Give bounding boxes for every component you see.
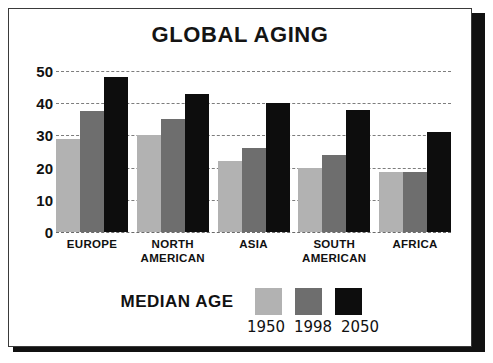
bar-group bbox=[298, 71, 370, 232]
legend-title: MEDIAN AGE bbox=[121, 292, 234, 312]
category-label: NORTHAMERICAN bbox=[137, 237, 209, 265]
y-tick-40: 40 bbox=[17, 95, 53, 112]
x-axis-baseline bbox=[56, 232, 451, 233]
y-tick-0: 0 bbox=[17, 224, 53, 241]
page-shadow-right bbox=[471, 13, 485, 351]
bar-1950 bbox=[56, 139, 80, 232]
legend-year-row: 1950 1998 2050 bbox=[9, 318, 473, 336]
x-axis-category-labels: EUROPENORTHAMERICANASIASOUTHAMERICANAFRI… bbox=[56, 237, 451, 265]
y-tick-50: 50 bbox=[17, 63, 53, 80]
bar-group bbox=[379, 71, 451, 232]
bar-1950 bbox=[379, 172, 403, 232]
bar-1950 bbox=[218, 161, 242, 232]
chart-card: GLOBAL AGING 50 40 30 20 10 0 EUROPENORT… bbox=[8, 8, 472, 347]
bar-1998 bbox=[80, 111, 104, 232]
y-tick-30: 30 bbox=[17, 127, 53, 144]
legend-swatch-2050 bbox=[335, 288, 362, 315]
legend-swatch-1950 bbox=[255, 288, 282, 315]
bar-1998 bbox=[403, 172, 427, 232]
bar-1950 bbox=[137, 135, 161, 232]
bar-2050 bbox=[104, 77, 128, 232]
bar-group bbox=[56, 71, 128, 232]
category-label: AFRICA bbox=[379, 237, 451, 265]
y-axis-labels: 50 40 30 20 10 0 bbox=[17, 71, 53, 232]
category-label: ASIA bbox=[218, 237, 290, 265]
category-label: EUROPE bbox=[56, 237, 128, 265]
bar-group bbox=[137, 71, 209, 232]
bar-groups bbox=[56, 71, 451, 232]
bar-2050 bbox=[427, 132, 451, 232]
category-label: SOUTHAMERICAN bbox=[298, 237, 370, 265]
y-tick-10: 10 bbox=[17, 191, 53, 208]
bar-2050 bbox=[266, 103, 290, 232]
bar-2050 bbox=[346, 110, 370, 232]
bar-1950 bbox=[298, 168, 322, 232]
chart-legend: MEDIAN AGE 1950 1998 2050 bbox=[9, 288, 473, 336]
legend-swatch-1998 bbox=[295, 288, 322, 315]
bar-1998 bbox=[161, 119, 185, 232]
legend-swatch-row: MEDIAN AGE bbox=[9, 288, 473, 315]
legend-year-2050: 2050 bbox=[340, 318, 380, 336]
chart-title: GLOBAL AGING bbox=[9, 22, 471, 48]
legend-year-1998: 1998 bbox=[293, 318, 333, 336]
bar-1998 bbox=[242, 148, 266, 232]
legend-year-1950: 1950 bbox=[246, 318, 286, 336]
bar-2050 bbox=[185, 94, 209, 232]
bar-group bbox=[218, 71, 290, 232]
y-tick-20: 20 bbox=[17, 159, 53, 176]
bar-1998 bbox=[322, 155, 346, 232]
